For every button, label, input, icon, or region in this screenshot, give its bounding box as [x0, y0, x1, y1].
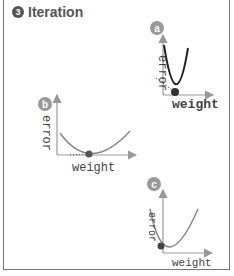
point-b [86, 151, 93, 158]
badge-a: a [154, 23, 160, 34]
panel-c: c error weight [146, 177, 212, 269]
xlabel-c: weight [172, 257, 212, 269]
xlabel-a: weight [172, 97, 219, 112]
panel-b: b error weight [38, 95, 136, 175]
diagram-canvas: a error weight b error weight c error we… [0, 0, 234, 276]
badge-c: c [151, 179, 157, 190]
curve-b [60, 131, 130, 154]
ylabel-c: error [146, 212, 157, 242]
point-c [158, 243, 165, 250]
ylabel-a: error [155, 55, 169, 91]
badge-b: b [42, 99, 48, 110]
ylabel-b: error [39, 115, 53, 151]
panel-a: a error weight [150, 21, 219, 112]
xlabel-b: weight [72, 161, 115, 175]
